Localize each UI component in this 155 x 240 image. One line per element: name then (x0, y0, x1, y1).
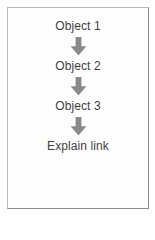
diagram-canvas: Object 1 Object 2 Object 3 Explain link (0, 0, 155, 240)
arrow-down-icon (70, 117, 87, 136)
flow-connector-2 (8, 74, 148, 99)
flow-connector-1 (8, 34, 148, 59)
flow-node-explain-link: Explain link (47, 139, 109, 154)
arrow-down-icon (70, 37, 87, 56)
flow-connector-3 (8, 114, 148, 139)
flow-node-object-3: Object 3 (55, 99, 101, 114)
flow-node-object-1: Object 1 (55, 19, 101, 34)
arrow-down-icon (70, 77, 87, 96)
flowchart-container: Object 1 Object 2 Object 3 Explain link (7, 7, 149, 209)
flow-node-object-2: Object 2 (55, 59, 101, 74)
